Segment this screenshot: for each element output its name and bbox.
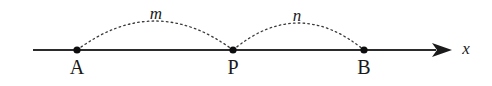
- x-axis-label: x: [462, 40, 470, 57]
- point-a-dot: [73, 46, 80, 53]
- point-b-dot: [360, 46, 367, 53]
- point-b-label: B: [357, 57, 370, 77]
- arc-n-path: [233, 23, 364, 50]
- arc-n-label: n: [293, 7, 302, 24]
- point-a-label: A: [70, 57, 84, 77]
- point-p-label: P: [227, 57, 238, 77]
- arc-m-path: [77, 21, 233, 50]
- number-line-figure: A P B m n x: [0, 0, 492, 86]
- arc-m-label: m: [150, 5, 162, 22]
- point-p-dot: [229, 46, 236, 53]
